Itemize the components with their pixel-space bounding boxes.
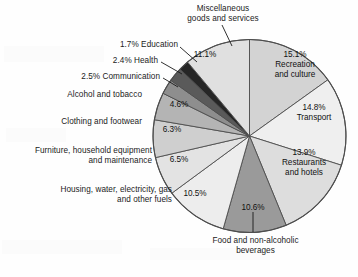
outer-label-miscellaneous: Miscellaneous goods and services: [148, 4, 298, 24]
outer-label-miscellaneous-line2: goods and services: [148, 14, 298, 24]
slice-label-transport-name1: Transport: [283, 113, 345, 123]
outer-label-alcohol-tobacco: Alcohol and tobacco: [18, 90, 142, 100]
outer-label-education: 1.7% Education: [38, 40, 178, 50]
outer-label-furniture-line1: Furniture, household equipment: [2, 146, 152, 156]
pie-chart-figure: Miscellaneous goods and services 1.7% Ed…: [0, 0, 358, 277]
outer-label-housing: Housing, water, electricity, gas and oth…: [16, 185, 172, 205]
outer-label-food-line1: Food and non-alcoholic: [188, 236, 323, 246]
slice-label-transport: 14.8% Transport: [283, 103, 345, 123]
slice-label-recreation-name1: Recreation: [260, 60, 330, 70]
slice-label-recreation-name2: and culture: [260, 70, 330, 80]
outer-label-clothing-footwear: Clothing and footwear: [10, 117, 142, 127]
slice-label-alcohol: 4.6%: [156, 100, 202, 110]
slice-label-recreation: 15.1% Recreation and culture: [260, 50, 330, 81]
slice-label-food: 10.6%: [228, 203, 278, 213]
slice-label-restaurants-name1: Restaurants: [267, 158, 341, 168]
slice-label-miscellaneous: 11.1%: [180, 50, 230, 60]
outer-label-food: Food and non-alcoholic beverages: [188, 236, 323, 256]
slice-label-restaurants-pct: 13.9%: [267, 148, 341, 158]
slice-label-clothing: 6.3%: [149, 125, 195, 135]
slice-label-transport-pct: 14.8%: [283, 103, 345, 113]
outer-label-housing-line2: and other fuels: [16, 195, 172, 205]
slice-label-restaurants: 13.9% Restaurants and hotels: [267, 148, 341, 179]
outer-label-health: 2.4% Health: [38, 56, 158, 66]
outer-label-furniture: Furniture, household equipment and maint…: [2, 146, 152, 166]
outer-label-communication: 2.5% Communication: [18, 72, 160, 82]
leader-line-health: [161, 62, 182, 74]
slice-label-restaurants-name2: and hotels: [267, 168, 341, 178]
outer-label-miscellaneous-line1: Miscellaneous: [148, 4, 298, 14]
slice-label-housing: 10.5%: [170, 189, 220, 199]
outer-label-furniture-line2: and maintenance: [2, 156, 152, 166]
slice-label-furniture: 6.5%: [156, 155, 202, 165]
outer-label-housing-line1: Housing, water, electricity, gas: [16, 185, 172, 195]
slice-label-recreation-pct: 15.1%: [260, 50, 330, 60]
outer-label-food-line2: beverages: [188, 246, 323, 256]
